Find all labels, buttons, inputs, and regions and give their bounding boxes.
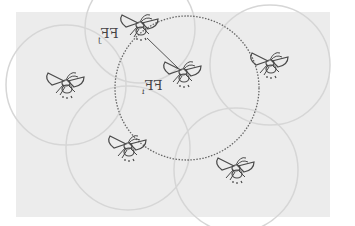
firefly-icon-bottom-right (217, 158, 254, 184)
firefly-icon-ffj (121, 15, 158, 41)
firefly-diagram (0, 0, 355, 226)
label-ffi-text: FF (145, 78, 163, 93)
label-ffi: FFi (142, 78, 163, 96)
firefly-icon-left (47, 73, 84, 99)
neighbourhood-circle (115, 16, 259, 160)
label-ffj-sub: j (98, 35, 100, 44)
label-ffj-text: FF (100, 26, 118, 41)
firefly-icon-bottom-left (109, 136, 146, 162)
range-circles (6, 0, 330, 226)
range-circle-bottom-right (174, 108, 298, 226)
label-ffi-sub: i (142, 87, 145, 96)
firefly-icon-right (251, 53, 288, 79)
connection-line (147, 38, 178, 68)
label-ffj: FFj (98, 26, 119, 44)
